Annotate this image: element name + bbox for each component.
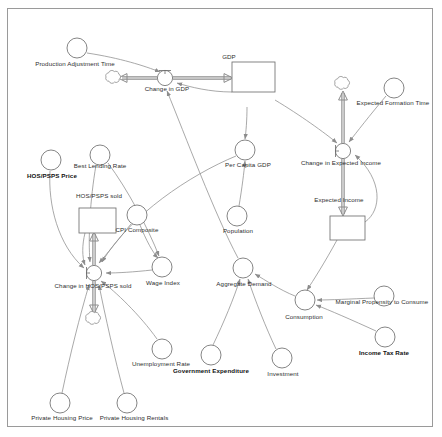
variable-label-best-lending-rate: Best Lending Rate xyxy=(74,162,127,169)
link-expected-income-to-consumption xyxy=(307,240,337,290)
link-unemployment-rate-to-change-in-hos-sold xyxy=(101,281,157,339)
variable-label-consumption: Consumption xyxy=(285,313,323,320)
link-per-capita-gdp-to-change-in-hos-sold xyxy=(102,156,236,262)
link-private-housing-price-to-change-in-hos-sold xyxy=(62,285,89,393)
stock-expected-income xyxy=(330,216,365,240)
link-gdp-to-change-in-expected-income xyxy=(275,100,337,143)
variable-investment xyxy=(272,348,292,368)
variable-label-expected-formation-time: Expected Formation Time xyxy=(357,99,430,106)
cloud-expected-income-source xyxy=(335,76,350,89)
valves xyxy=(86,70,350,280)
link-wage-index-to-change-in-hos-sold xyxy=(106,270,152,273)
variable-consumption xyxy=(295,290,315,310)
variable-production-adjustment-time xyxy=(67,38,87,58)
variable-label-income-tax-rate: Income Tax Rate xyxy=(359,349,409,356)
diagram-canvas: GDP HOS/PSPS sold Expected Income Change… xyxy=(0,0,442,437)
variable-label-hos-price: HOS/PSPS Price xyxy=(27,172,77,179)
link-private-housing-rentals-to-change-in-hos-sold xyxy=(99,285,124,393)
variable-label-unemployment-rate: Unemployment Rate xyxy=(132,360,190,367)
variable-label-government-expenditure: Government Expenditure xyxy=(173,367,249,374)
variable-label-aggregate-demand: Aggregate Demand xyxy=(216,280,271,287)
stock-gdp xyxy=(232,62,275,92)
cloud-hos-sink xyxy=(86,311,101,324)
variable-population xyxy=(227,206,247,226)
flow-label-change-in-hos-sold: Change in HOS/PSPS sold xyxy=(55,282,132,289)
link-investment-to-aggregate-demand xyxy=(248,279,276,349)
stocks xyxy=(79,62,365,240)
variable-label-per-capita-gdp: Per Capita GDP xyxy=(225,161,271,168)
stock-label-expected-income: Expected Income xyxy=(314,196,363,203)
link-gdp-to-per-capita-gdp xyxy=(245,107,247,139)
variable-aggregate-demand xyxy=(233,258,253,278)
variable-wage-index xyxy=(152,257,172,277)
variable-expected-formation-time xyxy=(384,78,404,98)
variable-label-private-housing-rentals: Private Housing Rentals xyxy=(100,414,169,421)
link-hos-sold-to-change-in-hos-sold xyxy=(83,233,85,265)
variable-label-wage-index: Wage Index xyxy=(146,279,180,286)
stock-hos-sold xyxy=(79,208,116,233)
variable-label-population: Population xyxy=(223,227,253,234)
link-government-expenditure-to-aggregate-demand xyxy=(213,279,240,345)
variable-label-cpi-composite: CPI Composite xyxy=(116,226,159,233)
link-income-tax-rate-to-consumption xyxy=(316,305,376,331)
variable-label-investment: Investment xyxy=(267,370,298,377)
variable-hos-price xyxy=(41,150,61,170)
variable-government-expenditure xyxy=(201,345,221,365)
variable-private-housing-price xyxy=(50,393,70,413)
variable-income-tax-rate xyxy=(375,327,395,347)
cloud-gdp-source xyxy=(106,70,121,83)
variable-private-housing-rentals xyxy=(117,393,137,413)
stock-label-hos-sold: HOS/PSPS sold xyxy=(76,192,122,199)
variable-unemployment-rate xyxy=(152,339,172,359)
flow-label-change-in-expected-income: Change in Expected Income xyxy=(301,159,381,166)
variable-label-production-adjustment-time: Production Adjustment Time xyxy=(35,60,115,67)
stock-label-gdp: GDP xyxy=(222,53,236,60)
variable-label-private-housing-price: Private Housing Price xyxy=(31,414,93,421)
flow-label-change-in-gdp: Change in GDP xyxy=(145,85,190,92)
variable-cpi-composite xyxy=(127,205,147,225)
variable-label-marginal-propensity-to-consume: Marginal Propensity to Consume xyxy=(336,298,429,305)
variable-per-capita-gdp xyxy=(235,140,255,160)
